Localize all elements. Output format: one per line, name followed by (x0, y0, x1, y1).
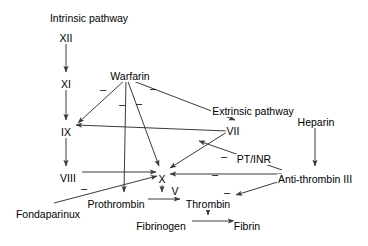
minus-sign-at3-x: – (212, 169, 218, 180)
label-fibrinogen: Fibrinogen (135, 221, 187, 232)
edge-warfarin-prothrombin (124, 79, 126, 192)
coagulation-cascade-diagram: Intrinsic pathway XII XI IX VIII Warfari… (0, 0, 368, 246)
edge-vii-to-ix (76, 125, 228, 131)
edge-vii-to-x (170, 132, 227, 168)
label-warfarin: Warfarin (109, 71, 150, 82)
label-factor-ix: IX (60, 127, 72, 138)
label-pt-inr: PT/INR (236, 154, 272, 165)
label-factor-x: X (157, 174, 166, 185)
label-factor-xii: XII (59, 33, 74, 44)
minus-sign-warfarin-ix: – (100, 84, 106, 95)
label-factor-xi: XI (60, 79, 72, 90)
label-fondaparinux: Fondaparinux (15, 209, 81, 220)
minus-sign-fondaparinux-x: – (81, 183, 87, 194)
minus-sign-at3-thrombin: – (224, 187, 230, 198)
label-heparin: Heparin (297, 117, 336, 128)
minus-sign-at3-vii: – (221, 151, 227, 162)
label-intrinsic-pathway: Intrinsic pathway (49, 13, 129, 24)
label-anti-thrombin-iii: Anti-thrombin III (277, 174, 353, 185)
label-fibrin: Fibrin (233, 221, 261, 232)
label-factor-viii: VIII (59, 173, 77, 184)
minus-sign-warfarin-x: – (136, 98, 142, 109)
minus-sign-warfarin-vii: – (150, 83, 156, 94)
label-prothrombin: Prothrombin (86, 199, 145, 210)
label-extrinsic-pathway: Extrinsic pathway (211, 106, 295, 117)
label-thrombin: Thrombin (185, 199, 231, 210)
label-factor-vii: VII (226, 126, 241, 137)
label-factor-v: V (170, 186, 179, 197)
minus-sign-warfarin-prothrombin: – (119, 99, 125, 110)
